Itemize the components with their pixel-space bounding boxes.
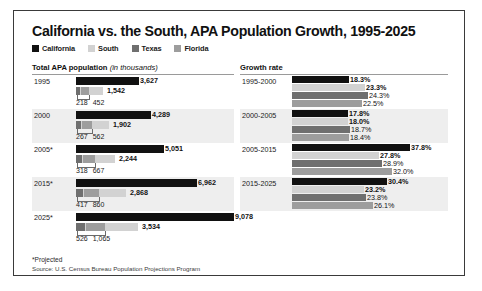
growth-bar-california	[292, 76, 349, 83]
legend-swatch-texas	[132, 45, 139, 52]
growth-bar-south	[292, 84, 365, 91]
bar-texas	[76, 155, 82, 163]
growth-group: 1995-200018.3%23.3%24.3%22.5%	[240, 75, 448, 109]
footnote: *Projected	[32, 255, 448, 264]
value-florida: 452	[93, 99, 105, 106]
value-south: 3,534	[142, 222, 160, 231]
population-group-label: 2025*	[34, 213, 53, 222]
legend-swatch-florida	[174, 45, 181, 52]
bar-florida	[81, 87, 89, 95]
left-group-list: 19953,6271,542218 45220004,2891,902267 5…	[32, 75, 234, 245]
growth-bar-florida	[292, 100, 362, 107]
growth-group: 2000-200517.8%18.0%18.7%18.4%	[240, 109, 448, 143]
value-texas: 218	[76, 99, 88, 106]
value-florida: 860	[93, 201, 105, 208]
growth-value-florida: 18.4%	[350, 133, 370, 142]
growth-group-label: 2015-2025	[242, 179, 276, 188]
growth-bar-texas	[292, 160, 382, 167]
growth-bar-florida	[292, 168, 392, 175]
value-california: 6,962	[198, 178, 216, 187]
bar-california	[76, 213, 234, 221]
growth-group-label: 2000-2005	[242, 111, 276, 120]
population-group-label: 2015*	[34, 179, 53, 188]
value-south: 2,244	[119, 154, 137, 163]
bar-florida	[83, 155, 95, 163]
right-group-list: 1995-200018.3%23.3%24.3%22.5%2000-200517…	[240, 75, 448, 211]
bar-texas	[76, 223, 85, 231]
population-group: 2005*5,0512,244318 667	[32, 143, 234, 177]
chart-title: California vs. the South, APA Population…	[32, 23, 448, 39]
growth-bar-texas	[292, 194, 366, 201]
legend-label-california: California	[42, 44, 75, 53]
growth-value-california: 37.8%	[411, 143, 431, 152]
legend-label-texas: Texas	[142, 44, 162, 53]
panel-left-heading-note: (in thousands)	[110, 63, 158, 72]
value-south: 2,868	[130, 188, 148, 197]
bar-florida	[86, 223, 105, 231]
bar-california	[76, 145, 164, 153]
population-group: 19953,6271,542218 452	[32, 75, 234, 109]
value-california: 5,051	[165, 144, 183, 153]
growth-group-label: 2005-2015	[242, 145, 276, 154]
value-florida: 1,065	[93, 235, 111, 242]
growth-bar-california	[292, 144, 410, 151]
growth-bar-california	[292, 110, 348, 117]
panel-right-heading: Growth rate	[240, 63, 448, 73]
value-texas: 417	[76, 201, 88, 208]
value-california: 4,289	[152, 110, 170, 119]
growth-value-florida: 22.5%	[363, 99, 383, 108]
growth-group: 2005-201537.8%27.8%28.9%32.0%	[240, 143, 448, 177]
legend-item-texas: Texas	[132, 44, 162, 53]
small-values: 417 860	[76, 201, 104, 208]
population-group-label: 2000	[34, 111, 50, 120]
growth-bar-florida	[292, 134, 349, 141]
legend-item-california: California	[32, 44, 75, 53]
legend-swatch-california	[32, 45, 39, 52]
population-group-label: 2005*	[34, 145, 53, 154]
panel-total-population: Total APA population (in thousands) 1995…	[32, 63, 234, 249]
bar-florida	[82, 121, 92, 129]
growth-value-florida: 32.0%	[393, 167, 413, 176]
bar-texas	[76, 87, 80, 95]
infographic-frame: California vs. the South, APA Population…	[13, 10, 465, 276]
growth-bar-south	[292, 186, 364, 193]
panel-left-heading: Total APA population (in thousands)	[32, 63, 234, 73]
bar-california	[76, 77, 139, 85]
bar-florida	[84, 189, 99, 197]
growth-group: 2015-202530.4%23.2%23.8%26.1%	[240, 177, 448, 211]
value-california: 3,627	[140, 76, 158, 85]
growth-group-label: 1995-2000	[242, 77, 276, 86]
value-florida: 562	[93, 133, 105, 140]
growth-value-california: 30.4%	[388, 177, 408, 186]
legend-item-south: South	[88, 44, 118, 53]
growth-bar-south	[292, 152, 379, 159]
value-texas: 526	[76, 235, 88, 242]
population-group-label: 1995	[34, 77, 50, 86]
value-texas: 318	[76, 167, 88, 174]
value-south: 1,542	[107, 86, 125, 95]
legend-item-florida: Florida	[174, 44, 208, 53]
growth-value-florida: 26.1%	[374, 201, 394, 210]
population-group: 2025*9,0783,534526 1,065	[32, 211, 234, 245]
bar-california	[76, 179, 197, 187]
legend-swatch-south	[88, 45, 95, 52]
source-note: Source: U.S. Census Bureau Population Pr…	[32, 264, 448, 273]
value-south: 1,902	[113, 120, 131, 129]
value-texas: 267	[76, 133, 88, 140]
bar-california	[76, 111, 151, 119]
value-florida: 667	[93, 167, 105, 174]
growth-bar-california	[292, 178, 387, 185]
small-values: 318 667	[76, 167, 104, 174]
legend-label-south: South	[98, 44, 118, 53]
growth-bar-texas	[292, 92, 368, 99]
population-group: 20004,2891,902267 562	[32, 109, 234, 143]
legend: California South Texas Florida	[32, 44, 448, 53]
bar-texas	[76, 121, 81, 129]
legend-label-florida: Florida	[184, 44, 208, 53]
small-values: 526 1,065	[76, 235, 110, 242]
growth-bar-south	[292, 118, 348, 125]
growth-bar-texas	[292, 126, 350, 133]
panel-growth-rate: Growth rate 1995-200018.3%23.3%24.3%22.5…	[240, 63, 448, 249]
growth-bar-florida	[292, 202, 373, 209]
footer: *Projected Source: U.S. Census Bureau Po…	[32, 255, 448, 273]
